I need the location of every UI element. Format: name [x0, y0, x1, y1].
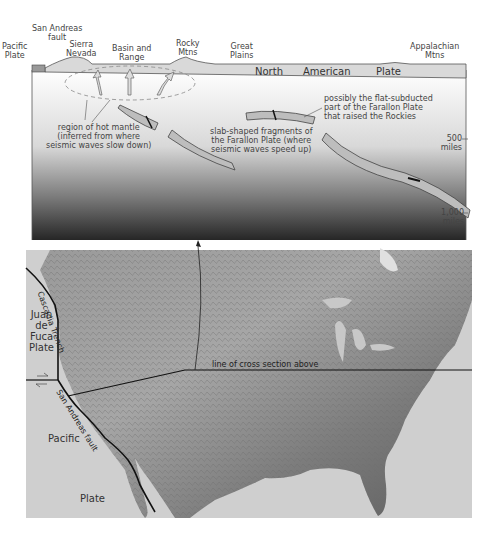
label-basin-and-range: Basin and Range: [112, 44, 151, 62]
label-plate: Plate: [376, 66, 401, 77]
depth-500-miles: 500miles: [436, 134, 462, 152]
label-plate-map: Plate: [80, 493, 105, 504]
annotation-flat-subducted: possibly the flat-subducted part of the …: [324, 94, 433, 121]
label-pacific: Pacific: [48, 433, 80, 444]
label-sierra-nevada: Sierra Nevada: [66, 40, 97, 58]
annotation-hot-mantle: region of hot mantle (inferred from wher…: [46, 123, 151, 150]
label-appalachian-mtns: Appalachian Mtns: [410, 42, 459, 60]
north-america-relief-map: [26, 248, 472, 518]
pacific-plate-crust: [32, 65, 45, 72]
label-pacific-plate: Pacific Plate: [2, 42, 27, 60]
annotation-slab-fragments: slab-shaped fragments of the Farallon Pl…: [210, 127, 312, 154]
label-section-line: line of cross section above: [212, 360, 318, 369]
label-great-plains: Great Plains: [230, 42, 253, 60]
depth-1000-miles: 1,000miles: [434, 208, 464, 226]
label-north: North: [255, 66, 283, 77]
label-american: American: [303, 66, 351, 77]
diagram-graphics: [0, 0, 497, 549]
label-rocky-mtns: Rocky Mtns: [176, 39, 200, 57]
